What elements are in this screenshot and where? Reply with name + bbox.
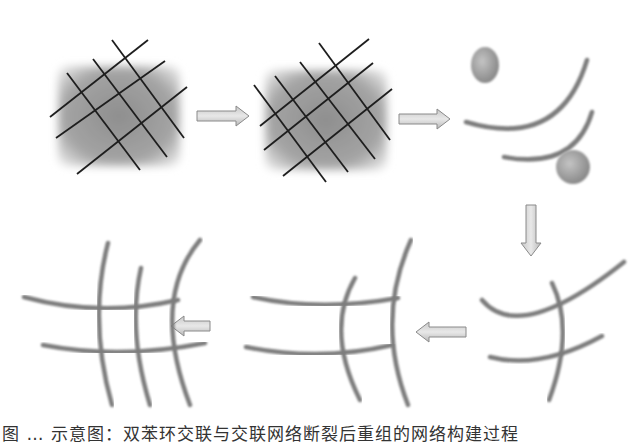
arrow-right-1: [197, 106, 249, 126]
particle-sphere: [471, 47, 499, 83]
fiber-horizontal: [253, 297, 398, 305]
panel-3-arcs-with-particles: [466, 47, 592, 184]
figure-caption: 图 … 示意图：双苯环交联与交联网络断裂后重组的网络构建过程: [0, 419, 634, 446]
particle-sphere: [556, 150, 590, 184]
gray-square: [265, 70, 387, 170]
arrow-right-2: [399, 109, 450, 129]
fiber-vertical: [99, 243, 112, 405]
arrow-left-1: [416, 322, 466, 342]
fiber-vertical: [136, 268, 150, 405]
panel-1-crosslinked-grid: [50, 40, 187, 174]
fiber-vertical: [341, 278, 360, 400]
fiber-vertical: [549, 283, 563, 400]
fiber-horizontal: [246, 345, 392, 354]
panel-2-crosslinked-grid: [254, 39, 392, 182]
panel-5-growing-network: [246, 240, 411, 405]
fiber-horizontal: [490, 336, 602, 361]
arrow-down: [521, 205, 541, 256]
panel-4-partial-network: [482, 262, 624, 400]
arrow-left-2: [171, 316, 210, 336]
fiber-vertical: [392, 240, 411, 405]
fiber-horizontal: [43, 343, 205, 352]
